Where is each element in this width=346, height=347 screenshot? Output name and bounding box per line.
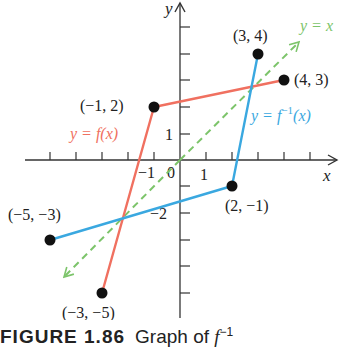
figure-number: FIGURE 1.86 <box>0 326 125 347</box>
y-axis-label: y <box>163 0 173 18</box>
curve-f-inverse-label: y = f−1(x) <box>249 104 311 125</box>
point-m3-m5 <box>97 288 108 299</box>
point-label-m1-2: (−1, 2) <box>80 97 124 115</box>
point-label-4-3: (4, 3) <box>294 71 329 89</box>
x-tick-label-1: 1 <box>200 166 208 183</box>
point-m5-m3 <box>45 235 56 246</box>
point-m1-2 <box>149 102 160 113</box>
x-tick-label-neg1: −1 <box>138 164 155 181</box>
y-axis: y <box>163 0 190 318</box>
identity-label: y = x <box>298 17 333 35</box>
x-axis-label: x <box>322 166 331 185</box>
curve-f-label: y = f(x) <box>68 125 118 143</box>
point-4-3 <box>279 75 290 86</box>
plot-area: x y 0 −1 1 1 −2 <box>0 0 346 320</box>
x-axis: x <box>25 152 337 185</box>
figure-caption: FIGURE 1.86Graph of f−1 <box>0 325 233 347</box>
point-label-m3-m5: (−3, −5) <box>62 304 115 320</box>
figure-text: Graph of f−1 <box>135 326 233 347</box>
point-label-m5-m3: (−5, −3) <box>8 206 61 224</box>
point-label-3-4: (3, 4) <box>233 27 268 45</box>
graph-figure: x y 0 −1 1 1 −2 <box>0 0 346 347</box>
point-label-2-m1: (2, −1) <box>225 197 269 215</box>
point-3-4 <box>253 49 264 60</box>
point-2-m1 <box>227 181 238 192</box>
y-tick-label-1: 1 <box>165 126 173 143</box>
